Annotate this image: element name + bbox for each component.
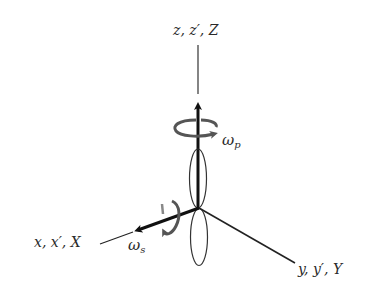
omega-p-label: ωp	[222, 131, 241, 150]
x-angular-velocity-arrow	[138, 208, 199, 230]
omega-s-symbol: ω	[128, 236, 140, 254]
precession-curl-arrow	[175, 120, 214, 136]
y-axis-line	[199, 208, 295, 263]
omega-s-subscript: s	[140, 244, 145, 255]
z-axis-label: z, z′, Z	[173, 22, 218, 38]
lower-lobe	[191, 209, 208, 266]
rotating-axes-diagram	[0, 0, 383, 303]
y-axis-label: y, y′, Y	[298, 261, 342, 277]
x-axis-label: x, x′, X	[34, 234, 81, 250]
omega-p-symbol: ω	[222, 131, 234, 149]
omega-p-subscript: p	[234, 139, 240, 150]
omega-s-label: ωs	[128, 236, 145, 255]
